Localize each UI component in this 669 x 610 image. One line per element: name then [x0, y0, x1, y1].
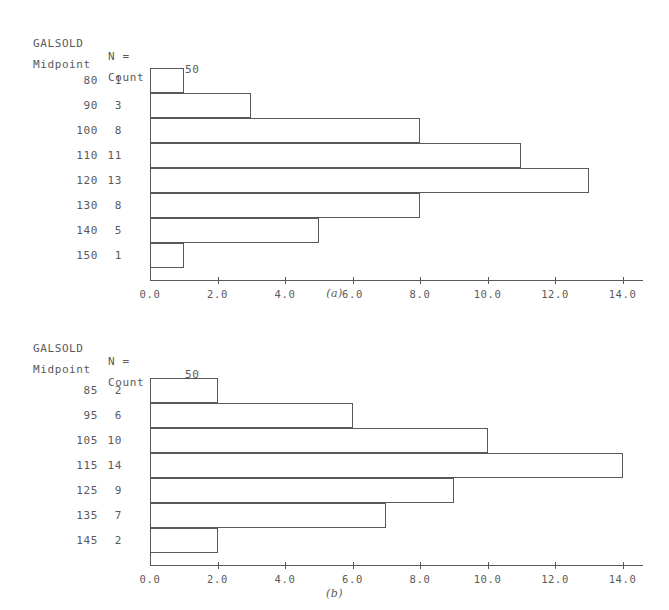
histogram-row: 1405 [0, 218, 669, 243]
row-count-label: 1 [100, 243, 122, 268]
x-axis-tick-label: 0.0 [130, 573, 170, 585]
histogram-bar [150, 68, 184, 93]
histogram-bar [150, 143, 521, 168]
figure-a-bar-rows: 80190310081101112013130814051501 [0, 68, 669, 268]
histogram-row: 956 [0, 403, 669, 428]
x-axis-tick-label: 14.0 [603, 573, 643, 585]
x-axis-tick [623, 277, 624, 284]
figure-a-x-axis: 0.02.04.06.08.010.012.014.0 [150, 280, 643, 281]
x-axis-tick [420, 562, 421, 569]
figure-b-caption: (b) [0, 587, 669, 600]
histogram-row: 11011 [0, 143, 669, 168]
figure-a-header-row-2: Midpoint Count [0, 45, 669, 65]
histogram-bar [150, 93, 251, 118]
row-midpoint-label: 135 [38, 503, 98, 528]
x-axis-tick [353, 562, 354, 569]
histogram-bar [150, 503, 386, 528]
row-count-label: 9 [100, 478, 122, 503]
row-count-label: 8 [100, 193, 122, 218]
x-axis-tick [285, 277, 286, 284]
histogram-figure-b: GALSOLD N = 50 Midpoint Count 8529561051… [0, 305, 669, 610]
x-axis-tick [285, 562, 286, 569]
figure-b-header-row-2: Midpoint Count [0, 350, 669, 370]
x-axis-tick [420, 277, 421, 284]
figure-b-header-row-1: GALSOLD N = 50 [0, 329, 669, 349]
histogram-figure-a: GALSOLD N = 50 Midpoint Count 8019031008… [0, 0, 669, 305]
histogram-bar [150, 118, 420, 143]
row-count-label: 10 [100, 428, 122, 453]
row-count-label: 7 [100, 503, 122, 528]
x-axis-tick [488, 562, 489, 569]
histogram-row: 10510 [0, 428, 669, 453]
row-midpoint-label: 95 [38, 403, 98, 428]
histogram-bar [150, 193, 420, 218]
histogram-bar [150, 428, 488, 453]
figure-a-axis-spine [150, 68, 151, 280]
histogram-row: 12013 [0, 168, 669, 193]
x-axis-tick [218, 277, 219, 284]
row-midpoint-label: 105 [38, 428, 98, 453]
histogram-row: 11514 [0, 453, 669, 478]
row-count-label: 3 [100, 93, 122, 118]
figure-a-header-row-1: GALSOLD N = 50 [0, 24, 669, 44]
histogram-bar [150, 403, 353, 428]
x-axis-tick-label: 10.0 [468, 573, 508, 585]
histogram-bar [150, 243, 184, 268]
histogram-bar [150, 378, 218, 403]
row-count-label: 2 [100, 378, 122, 403]
x-axis-tick [353, 277, 354, 284]
x-axis-tick [218, 562, 219, 569]
row-midpoint-label: 110 [38, 143, 98, 168]
row-midpoint-label: 150 [38, 243, 98, 268]
histogram-row: 1008 [0, 118, 669, 143]
figure-b-midpoint-column-header: Midpoint [33, 363, 91, 376]
row-midpoint-label: 90 [38, 93, 98, 118]
row-count-label: 8 [100, 118, 122, 143]
figure-b-x-axis: 0.02.04.06.08.010.012.014.0 [150, 565, 643, 566]
histogram-bar [150, 453, 623, 478]
row-midpoint-label: 100 [38, 118, 98, 143]
x-axis-tick [555, 277, 556, 284]
row-midpoint-label: 145 [38, 528, 98, 553]
row-midpoint-label: 85 [38, 378, 98, 403]
histogram-row: 801 [0, 68, 669, 93]
histogram-bar [150, 478, 454, 503]
row-count-label: 13 [100, 168, 122, 193]
x-axis-tick [488, 277, 489, 284]
row-midpoint-label: 130 [38, 193, 98, 218]
x-axis-tick-label: 6.0 [333, 573, 373, 585]
row-midpoint-label: 140 [38, 218, 98, 243]
histogram-bar [150, 168, 589, 193]
histogram-row: 1357 [0, 503, 669, 528]
histogram-row: 1259 [0, 478, 669, 503]
histogram-row: 852 [0, 378, 669, 403]
x-axis-tick-label: 4.0 [265, 573, 305, 585]
row-count-label: 1 [100, 68, 122, 93]
row-count-label: 5 [100, 218, 122, 243]
row-midpoint-label: 125 [38, 478, 98, 503]
x-axis-tick-label: 12.0 [535, 573, 575, 585]
histogram-bar [150, 218, 319, 243]
figure-b-bar-rows: 8529561051011514125913571452 [0, 378, 669, 553]
row-midpoint-label: 120 [38, 168, 98, 193]
row-midpoint-label: 80 [38, 68, 98, 93]
row-count-label: 14 [100, 453, 122, 478]
x-axis-tick-label: 8.0 [400, 573, 440, 585]
figure-b-header: GALSOLD N = 50 Midpoint Count [0, 329, 669, 373]
row-count-label: 2 [100, 528, 122, 553]
figure-a-header: GALSOLD N = 50 Midpoint Count [0, 24, 669, 68]
histogram-bar [150, 528, 218, 553]
x-axis-tick [623, 562, 624, 569]
histogram-row: 1308 [0, 193, 669, 218]
row-count-label: 11 [100, 143, 122, 168]
x-axis-tick-label: 2.0 [198, 573, 238, 585]
histogram-row: 903 [0, 93, 669, 118]
histogram-row: 1452 [0, 528, 669, 553]
x-axis-tick [555, 562, 556, 569]
figure-a-caption: (a) [0, 287, 669, 300]
row-count-label: 6 [100, 403, 122, 428]
figure-b-axis-spine [150, 378, 151, 565]
row-midpoint-label: 115 [38, 453, 98, 478]
histogram-row: 1501 [0, 243, 669, 268]
